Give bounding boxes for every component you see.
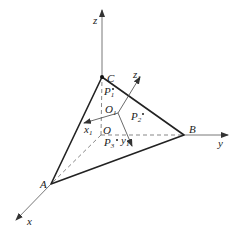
point-p2-dot [142, 113, 144, 115]
label-b: B [189, 123, 196, 135]
label-a: A [39, 178, 47, 190]
label-o1: O1 [105, 103, 116, 117]
label-z1: z1 [132, 68, 141, 82]
label-x: x [26, 215, 32, 227]
label-p3: P3 [103, 136, 115, 150]
point-p1-dot [112, 88, 114, 90]
label-x1: x1 [83, 123, 92, 137]
triangle-abc [51, 77, 184, 184]
label-p1: P1 [103, 85, 114, 99]
hidden-edge-oc [101, 77, 102, 135]
diagram-canvas: z y x C B A O O1 z1 x1 y1 P1 P2 P3 [0, 0, 237, 230]
label-y: y [217, 137, 223, 149]
label-p2: P2 [130, 110, 142, 124]
point-p3-dot [116, 139, 118, 141]
vertex-c-dot [100, 75, 104, 79]
z1-axis [118, 77, 140, 113]
label-z: z [92, 14, 98, 26]
label-c: C [107, 72, 115, 84]
hidden-edge-oa [51, 135, 101, 184]
label-o: O [103, 124, 111, 136]
tetrahedron-diagram: z y x C B A O O1 z1 x1 y1 P1 P2 P3 [0, 0, 237, 230]
